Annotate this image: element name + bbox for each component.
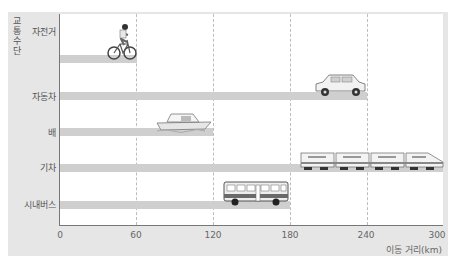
x-axis-title: 이동 거리(km) (386, 243, 442, 256)
train-icon (300, 148, 444, 172)
x-tick-180: 180 (281, 230, 298, 240)
x-tick-0: 0 (57, 230, 63, 240)
category-label-boat: 배 (8, 128, 56, 138)
gridline-120 (213, 14, 214, 225)
boat-icon (155, 112, 213, 134)
category-label-bicycle: 자전거 (8, 27, 56, 37)
gridline-240 (367, 14, 368, 225)
y-title-char: 단 (12, 46, 22, 56)
y-title-char: 수 (12, 36, 22, 46)
category-label-bus: 시내버스 (8, 200, 56, 210)
y-title-char: 교 (12, 16, 22, 26)
category-label-car: 자동차 (8, 92, 56, 102)
car-icon (313, 72, 367, 98)
gridline-180 (290, 14, 291, 225)
x-tick-300: 300 (428, 230, 445, 240)
x-tick-60: 60 (130, 230, 141, 240)
category-label-train: 기차 (8, 163, 56, 173)
bicycle-icon (107, 22, 137, 62)
x-tick-120: 120 (204, 230, 221, 240)
bus-icon (223, 179, 289, 207)
x-tick-240: 240 (357, 230, 374, 240)
plot-area (59, 14, 443, 226)
